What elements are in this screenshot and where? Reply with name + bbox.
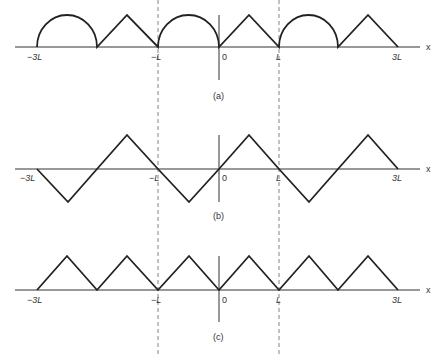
tick-minus-3L-b: −3L [20,173,35,183]
waveform-a [37,15,398,47]
panel-a: x −3L −L 0 L 3L (a) [15,15,431,101]
tick-minus-L-b: −L [149,173,159,183]
fourier-extension-diagram: x −3L −L 0 L 3L (a) x −3L −L 0 L 3L (b) … [0,0,445,356]
tick-3L-c: 3L [392,295,402,305]
tick-minus-3L-c: −3L [27,295,42,305]
caption-c: (c) [213,332,224,342]
tick-minus-L-c: −L [151,295,161,305]
tick-0-b: 0 [222,173,227,183]
caption-b: (b) [213,211,224,221]
tick-L-b: L [276,173,281,183]
waveform-c [37,256,398,290]
panel-c: x −3L −L 0 L 3L (c) [15,256,431,342]
x-axis-label-c: x [426,285,431,295]
tick-3L-a: 3L [392,52,402,62]
x-axis-label-b: x [426,164,431,174]
tick-L-a: L [276,52,281,62]
tick-minus-L-a: −L [151,52,161,62]
caption-a: (a) [213,91,224,101]
x-axis-label-a: x [426,42,431,52]
tick-3L-b: 3L [392,173,402,183]
panel-b: x −3L −L 0 L 3L (b) [15,135,431,221]
tick-0-c: 0 [222,295,227,305]
tick-0-a: 0 [222,52,227,62]
tick-L-c: L [276,295,281,305]
tick-minus-3L-a: −3L [27,52,42,62]
